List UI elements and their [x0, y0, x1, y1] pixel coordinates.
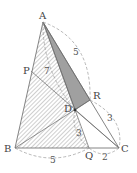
measure-ar: 5 [73, 47, 79, 57]
label-a: A [38, 10, 47, 21]
label-b: B [4, 143, 11, 154]
measure-ad: 7 [44, 66, 50, 76]
label-p: P [23, 65, 30, 76]
label-c: C [121, 143, 129, 154]
measure-dq: 3 [76, 128, 82, 138]
measure-rc: 3 [107, 113, 113, 123]
label-q: Q [85, 150, 93, 161]
label-d: D [64, 103, 72, 114]
geometry-figure: A B C P Q R D 5 7 3 3 5 2 [0, 0, 137, 173]
triangle-diagram: A B C P Q R D 5 7 3 3 5 2 [0, 0, 137, 173]
measure-qc: 2 [102, 152, 108, 162]
label-r: R [93, 90, 101, 101]
measure-bq: 5 [50, 155, 56, 165]
point-d-dot [74, 109, 77, 112]
